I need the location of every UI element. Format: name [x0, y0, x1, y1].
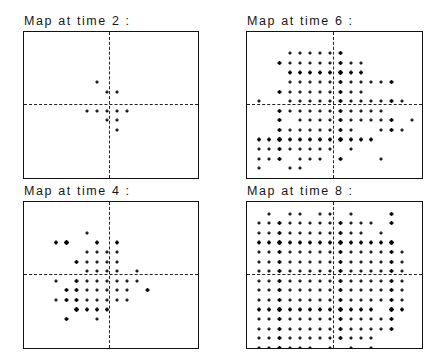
map-marker — [358, 230, 363, 235]
map-marker — [348, 211, 353, 216]
map-marker — [338, 156, 343, 161]
axis-vertical-dashed — [109, 32, 110, 178]
map-marker — [369, 118, 374, 123]
map-marker — [297, 108, 302, 113]
map-marker — [64, 297, 69, 302]
map-marker — [74, 307, 79, 312]
map-marker — [308, 288, 313, 293]
map-marker — [297, 89, 302, 94]
map-marker — [369, 137, 374, 142]
map-marker — [74, 288, 79, 293]
map-marker — [257, 336, 262, 341]
axis-vertical-dashed — [109, 202, 110, 348]
map-marker — [389, 118, 394, 123]
map-marker — [338, 240, 343, 245]
map-marker — [257, 147, 262, 152]
map-marker — [94, 250, 99, 255]
map-marker — [318, 60, 323, 65]
map-marker — [338, 89, 343, 94]
map-marker — [287, 211, 292, 216]
map-marker — [277, 317, 282, 322]
map-marker — [84, 250, 89, 255]
map-marker — [318, 336, 323, 341]
panel-title-time-2: Map at time 2 : — [24, 14, 199, 28]
map-marker — [277, 345, 282, 349]
map-marker — [277, 137, 282, 142]
map-marker — [257, 326, 262, 331]
map-marker — [338, 70, 343, 75]
map-plot-time-8 — [246, 201, 423, 349]
panel-time-8: Map at time 8 : — [246, 184, 423, 349]
axis-horizontal-dashed — [24, 274, 198, 275]
map-marker — [399, 288, 404, 293]
map-marker — [318, 221, 323, 226]
map-marker — [379, 156, 384, 161]
map-marker — [369, 326, 374, 331]
map-marker — [267, 250, 272, 255]
map-marker — [287, 60, 292, 65]
map-marker — [287, 89, 292, 94]
map-marker — [348, 278, 353, 283]
map-marker — [338, 108, 343, 113]
map-marker — [297, 156, 302, 161]
map-marker — [125, 278, 130, 283]
map-marker — [369, 240, 374, 245]
map-marker — [358, 70, 363, 75]
map-marker — [277, 60, 282, 65]
map-marker — [257, 345, 262, 349]
map-marker — [308, 221, 313, 226]
map-marker — [358, 80, 363, 85]
map-marker — [318, 230, 323, 235]
map-marker — [287, 147, 292, 152]
map-marker — [369, 278, 374, 283]
map-marker — [308, 297, 313, 302]
map-marker — [308, 278, 313, 283]
map-marker — [348, 345, 353, 349]
map-plot-time-6 — [246, 31, 423, 179]
map-marker — [379, 118, 384, 123]
map-marker — [287, 250, 292, 255]
map-marker — [277, 259, 282, 264]
map-marker — [379, 297, 384, 302]
map-marker — [389, 288, 394, 293]
map-marker — [308, 317, 313, 322]
map-marker — [318, 118, 323, 123]
map-marker — [338, 80, 343, 85]
map-marker — [348, 307, 353, 312]
map-marker — [389, 80, 394, 85]
map-marker — [379, 250, 384, 255]
map-marker — [348, 230, 353, 235]
map-marker — [287, 137, 292, 142]
map-marker — [308, 156, 313, 161]
map-marker — [358, 118, 363, 123]
map-marker — [358, 278, 363, 283]
map-marker — [94, 240, 99, 245]
map-marker — [267, 326, 272, 331]
map-marker — [277, 108, 282, 113]
map-marker — [287, 317, 292, 322]
map-marker — [369, 297, 374, 302]
map-marker — [267, 259, 272, 264]
figure-canvas: Map at time 2 : Map at time 6 : Map at t… — [0, 0, 444, 364]
map-marker — [115, 108, 120, 113]
map-marker — [358, 297, 363, 302]
map-marker — [308, 127, 313, 132]
map-marker — [297, 80, 302, 85]
map-marker — [369, 336, 374, 341]
map-marker — [297, 127, 302, 132]
map-marker — [74, 297, 79, 302]
map-marker — [277, 326, 282, 331]
map-marker — [277, 147, 282, 152]
map-marker — [389, 307, 394, 312]
map-marker — [399, 250, 404, 255]
map-marker — [379, 230, 384, 235]
map-marker — [297, 51, 302, 56]
map-marker — [389, 127, 394, 132]
map-marker — [257, 259, 262, 264]
map-marker — [257, 137, 262, 142]
map-marker — [318, 240, 323, 245]
map-marker — [267, 288, 272, 293]
map-marker — [308, 147, 313, 152]
map-marker — [338, 259, 343, 264]
map-marker — [338, 118, 343, 123]
